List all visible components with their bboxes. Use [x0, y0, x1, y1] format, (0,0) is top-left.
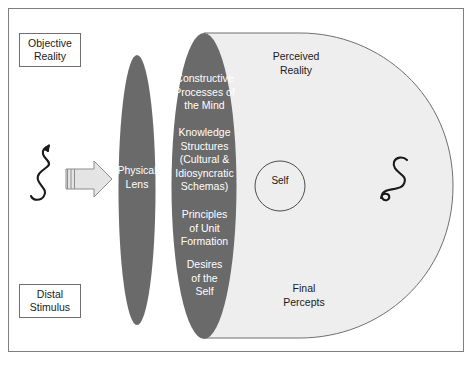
- label-distal-stimulus: Distal Stimulus: [19, 284, 81, 318]
- label-desires-of-the-self: Desires of the Self: [172, 258, 237, 299]
- label-physical-lens: Physical Lens: [104, 164, 170, 191]
- label-principles-of-unit-formation: Principles of Unit Formation: [172, 208, 237, 249]
- label-perceived-reality: Perceived Reality: [254, 50, 338, 77]
- label-final-percepts: Final Percepts: [262, 282, 346, 309]
- diagram-root: Objective Reality Distal Stimulus Physic…: [0, 0, 474, 366]
- label-knowledge-structures: Knowledge Structures (Cultural & Idiosyn…: [170, 126, 239, 194]
- label-constructive-processes: Constructive Processes of the Mind: [172, 72, 237, 113]
- label-objective-reality: Objective Reality: [19, 33, 81, 67]
- label-self: Self: [256, 174, 304, 188]
- squiggle-stimulus-icon: [31, 145, 49, 200]
